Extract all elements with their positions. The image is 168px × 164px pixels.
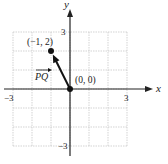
x-tick-label: −3 [4, 93, 14, 103]
y-axis-label: y [63, 0, 69, 10]
x-tick-label: 3 [124, 93, 129, 103]
point-label: (0, 0) [75, 75, 96, 86]
vector-over-arrowhead-icon [48, 68, 52, 72]
data-point [48, 48, 54, 54]
vector-label: PQ [34, 71, 49, 82]
labels: xy−333−3(−1, 2)(0, 0)PQ [4, 0, 161, 151]
x-axis-arrowhead-icon [145, 86, 153, 92]
vector-pq [55, 59, 70, 89]
data-point [67, 86, 73, 92]
coordinate-plane: xy−333−3(−1, 2)(0, 0)PQ [0, 0, 168, 164]
x-axis-label: x [155, 82, 161, 94]
y-tick-label: 3 [61, 27, 66, 37]
y-tick-label: −3 [58, 141, 68, 151]
point-label: (−1, 2) [27, 37, 53, 48]
y-axis-arrowhead-icon [67, 9, 73, 17]
